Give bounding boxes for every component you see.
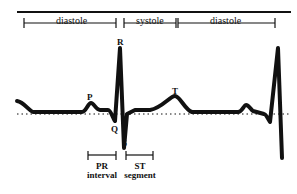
st-label-line2: segment [120,171,160,180]
phase-label-diastole-1: diastole [56,16,87,26]
wave-label-t: T [172,86,178,96]
phase-label-diastole-2: diastole [210,16,241,26]
wave-label-q: Q [111,124,118,134]
wave-label-r: R [117,37,124,47]
interval-brackets [88,151,153,160]
pr-interval-label: PR interval [84,162,120,180]
st-segment-label: ST segment [120,162,160,180]
wave-label-p: P [87,92,93,102]
pr-label-line2: interval [84,171,120,180]
wave-label-s: S [122,138,127,148]
ecg-trace [17,48,282,158]
phase-label-systole: systole [136,16,164,26]
